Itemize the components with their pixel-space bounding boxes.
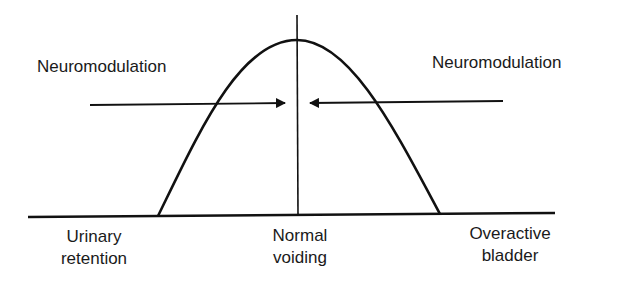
urinary-retention-label: Urinary retention [44, 226, 144, 270]
overactive-bladder-label: Overactive bladder [455, 223, 565, 267]
urinary-retention-line2: retention [44, 248, 144, 270]
neuromodulation-left-label: Neuromodulation [37, 56, 166, 78]
overactive-bladder-line1: Overactive [455, 223, 565, 245]
right-arrow [310, 101, 503, 103]
overactive-bladder-line2: bladder [455, 245, 565, 267]
left-arrow [90, 103, 285, 105]
normal-voiding-label: Normal voiding [250, 225, 350, 269]
center-vertical-line [297, 15, 298, 215]
normal-voiding-line1: Normal [250, 225, 350, 247]
neuromodulation-right-label: Neuromodulation [432, 52, 561, 74]
bell-curve [158, 40, 440, 216]
urinary-retention-line1: Urinary [44, 226, 144, 248]
baseline-axis [28, 213, 555, 217]
normal-voiding-line2: voiding [250, 247, 350, 269]
